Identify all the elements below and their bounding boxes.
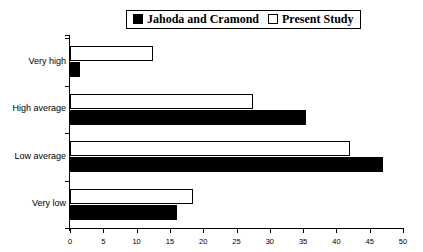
y-axis-category-label: Low average [0,151,66,161]
bar [70,157,383,172]
y-axis-tick [65,181,70,182]
y-axis-category-label: High average [0,103,66,113]
y-axis-tick [65,35,70,36]
x-axis-tick-label: 40 [332,237,340,246]
x-axis-tick-label: 30 [266,237,274,246]
plot-area: 05101520253035404550Very highHigh averag… [70,38,403,228]
bar [70,94,253,109]
x-axis-tick [336,228,337,233]
x-axis-tick [137,228,138,233]
x-axis-tick-label: 10 [132,237,140,246]
x-axis-tick [170,228,171,233]
legend-label: Present Study [282,13,353,25]
legend-label: Jahoda and Cramond [147,13,259,25]
x-axis-tick-label: 0 [68,237,72,246]
x-axis-tick-label: 45 [366,237,374,246]
bar [70,62,80,77]
bar [70,189,193,204]
x-axis-tick [103,228,104,233]
bar [70,141,350,156]
y-axis-tick [65,38,70,39]
x-axis-tick-label: 20 [199,237,207,246]
bar [70,205,177,220]
y-axis-category-label: Very high [0,56,66,66]
x-axis-tick [370,228,371,233]
legend-entry: Jahoda and Cramond [133,13,259,25]
y-axis-category-label: Very low [0,198,66,208]
x-axis-tick [70,228,71,233]
x-axis-tick-label: 15 [166,237,174,246]
x-axis-tick [203,228,204,233]
bar-chart: Jahoda and CramondPresent Study 05101520… [0,0,423,252]
x-axis-tick-label: 50 [399,237,407,246]
y-axis-tick [65,86,70,87]
y-axis-tick [65,133,70,134]
legend-entry: Present Study [268,13,353,25]
bar [70,46,153,61]
legend-swatch-black-icon [133,14,143,24]
legend-swatch-white-icon [268,14,278,24]
x-axis-tick [237,228,238,233]
chart-legend: Jahoda and CramondPresent Study [126,10,361,29]
x-axis-tick [403,228,404,233]
x-axis-tick-label: 35 [299,237,307,246]
x-axis-tick [270,228,271,233]
x-axis-tick [303,228,304,233]
x-axis-tick-label: 5 [101,237,105,246]
x-axis-tick-label: 25 [232,237,240,246]
bar [70,110,306,125]
y-axis-tick [65,228,70,229]
